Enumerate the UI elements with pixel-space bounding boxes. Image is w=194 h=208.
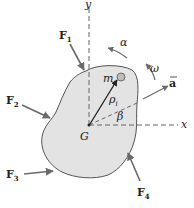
center-of-mass-label: G — [80, 130, 89, 143]
force-f4-label: F4 — [137, 186, 150, 201]
alpha-arrow — [108, 48, 127, 58]
force-f3-label: F3 — [6, 168, 19, 183]
force-f1-arrow — [70, 44, 84, 70]
x-axis-label: x — [181, 118, 188, 131]
beta-label: β — [116, 110, 123, 123]
force-f2-arrow — [22, 105, 50, 118]
force-f2-label: F2 — [6, 94, 19, 109]
force-f3-arrow — [24, 171, 53, 174]
particle-mi — [117, 73, 125, 81]
y-axis-label: y — [84, 0, 92, 11]
acceleration-arrow — [143, 86, 168, 99]
center-of-mass-point — [88, 124, 91, 127]
rigid-body-shape — [42, 66, 138, 178]
omega-label: ω — [150, 62, 159, 75]
alpha-label: α — [120, 36, 128, 49]
acceleration-label: a — [169, 77, 176, 90]
force-f1-label: F1 — [59, 29, 72, 44]
free-body-diagram: y x β ρi mi G α ω a F1 F2 F3 F4 — [0, 0, 194, 208]
force-f4-arrow — [128, 153, 140, 181]
